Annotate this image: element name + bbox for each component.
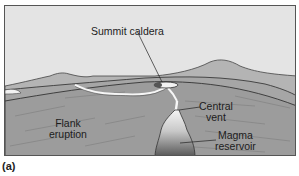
label-magma-reservoir: Magma reservoir xyxy=(215,130,256,152)
label-central-vent: Central vent xyxy=(199,101,233,123)
label-flank-eruption: Flank eruption xyxy=(49,118,87,140)
label-magma-reservoir-line2: reservoir xyxy=(215,141,256,152)
label-flank-eruption-line2: eruption xyxy=(49,129,87,140)
label-central-vent-line2: vent xyxy=(199,112,233,123)
label-summit-caldera: Summit caldera xyxy=(91,26,164,37)
volcano-diagram: Summit caldera Flank eruption Central ve… xyxy=(4,5,296,156)
figure-caption: (a) xyxy=(2,160,15,172)
